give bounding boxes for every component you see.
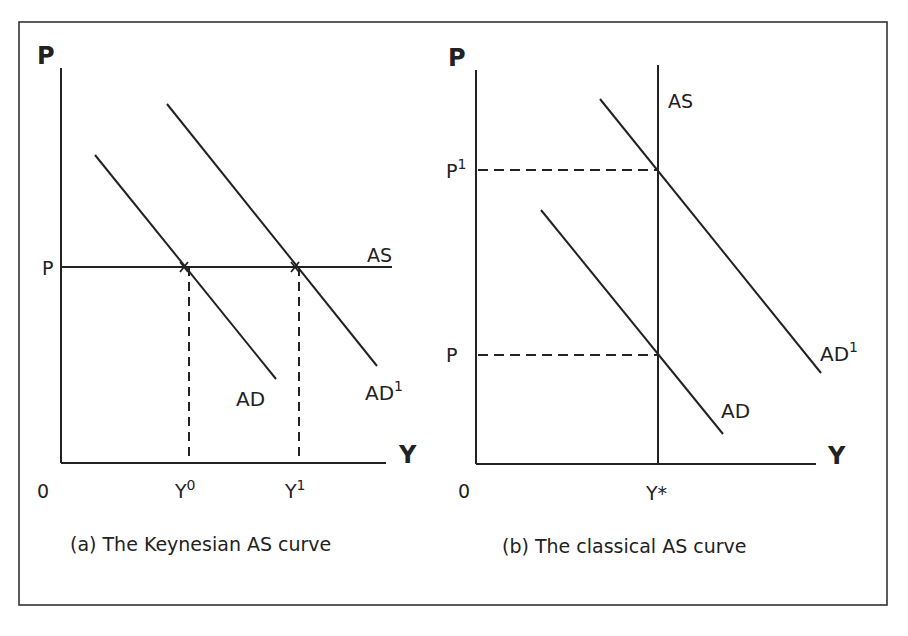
right-ad-label: AD	[721, 399, 750, 423]
keynesian-panel: P Y 0 P AS AD AD1 Y0 Y1 (a) The Keynesia…	[37, 42, 417, 555]
right-p-label: P	[446, 344, 457, 366]
diagram-canvas: P Y 0 P AS AD AD1 Y0 Y1 (a) The Keynesia…	[0, 0, 908, 636]
classical-panel: P Y 0 P1 P AS AD AD1 Y* (b) The classica…	[446, 44, 858, 557]
left-origin-label: 0	[37, 480, 49, 502]
right-axis-p-label: P	[448, 44, 466, 72]
right-p1-label: P1	[446, 156, 466, 182]
right-ad-line	[541, 210, 723, 434]
right-origin-label: 0	[458, 480, 470, 502]
left-ad1-line	[167, 104, 377, 366]
figure-frame	[19, 22, 887, 605]
right-axis-y-label: Y	[827, 442, 846, 470]
left-axis-y-label: Y	[398, 441, 417, 469]
left-p-label: P	[42, 257, 53, 279]
right-as-label: AS	[668, 90, 693, 112]
left-as-label: AS	[367, 244, 392, 266]
left-y1-label: Y1	[284, 477, 306, 502]
left-y0-label: Y0	[174, 477, 196, 502]
right-caption: (b) The classical AS curve	[502, 535, 747, 557]
right-ad1-label: AD1	[820, 339, 858, 366]
right-ad1-line	[600, 99, 821, 373]
left-caption: (a) The Keynesian AS curve	[70, 533, 331, 555]
left-ad1-label: AD1	[365, 378, 403, 405]
left-axis-p-label: P	[37, 42, 55, 70]
right-ystar-label: Y*	[645, 482, 667, 504]
left-ad-label: AD	[236, 387, 265, 411]
